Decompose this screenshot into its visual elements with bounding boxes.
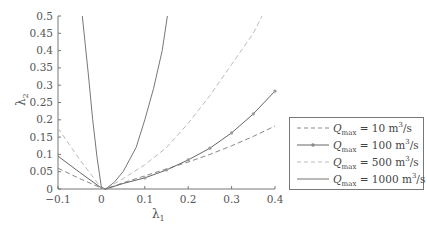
y-tick-label: 0 xyxy=(46,183,53,195)
legend-label: Qmax = 1000 m3/s xyxy=(333,172,425,188)
y-tick-label: 0.1 xyxy=(36,148,53,160)
legend-label: Qmax = 100 m3/s xyxy=(333,138,419,154)
x-tick-label: 0.1 xyxy=(136,193,153,205)
x-tick-label: −0.1 xyxy=(45,193,71,205)
dashed-line-icon xyxy=(297,124,329,132)
legend-item-q1000: Qmax = 1000 m3/s xyxy=(290,171,423,187)
legend-item-q10: Qmax = 10 m3/s xyxy=(290,120,423,136)
dashed-line-icon xyxy=(297,158,329,166)
marker-line-icon xyxy=(297,141,329,149)
y-tick-label: 0.45 xyxy=(30,27,53,39)
series-line-2 xyxy=(58,16,262,189)
legend-label: Qmax = 10 m3/s xyxy=(333,121,412,137)
chart-series xyxy=(58,16,277,189)
legend-item-q100: Qmax = 100 m3/s xyxy=(290,137,423,153)
y-tick-label: 0.35 xyxy=(30,61,53,73)
x-tick-label: 0 xyxy=(98,193,105,205)
x-tick-label: 0.3 xyxy=(223,193,240,205)
x-tick-label: 0.4 xyxy=(267,193,284,205)
series-marker xyxy=(165,168,168,171)
series-marker xyxy=(187,158,190,161)
series-marker xyxy=(208,147,211,150)
series-marker xyxy=(273,89,276,92)
y-tick-label: 0.3 xyxy=(36,79,53,91)
solid-line-icon xyxy=(297,175,329,183)
legend-label: Qmax = 500 m3/s xyxy=(333,155,419,171)
legend-item-q500: Qmax = 500 m3/s xyxy=(290,154,423,170)
y-tick-label: 0.5 xyxy=(36,10,53,22)
y-tick-label: 0.15 xyxy=(30,131,53,143)
chart-axes: −0.100.10.20.30.400.050.10.150.20.250.30… xyxy=(30,10,284,206)
y-tick-label: 0.05 xyxy=(30,165,53,177)
series-line-0 xyxy=(58,126,275,189)
series-line-3 xyxy=(82,16,167,189)
x-axis-label: λ1 xyxy=(152,207,165,223)
series-marker xyxy=(252,112,255,115)
y-axis-label: λ2 xyxy=(14,93,30,106)
x-tick-label: 0.2 xyxy=(180,193,197,205)
chart-legend: Qmax = 10 m3/s Qmax = 100 m3/s Qmax = 50… xyxy=(289,117,424,190)
y-tick-label: 0.25 xyxy=(30,96,53,108)
series-marker xyxy=(230,131,233,134)
series-marker xyxy=(143,176,146,179)
y-tick-label: 0.2 xyxy=(36,113,53,125)
y-tick-label: 0.4 xyxy=(36,44,53,56)
